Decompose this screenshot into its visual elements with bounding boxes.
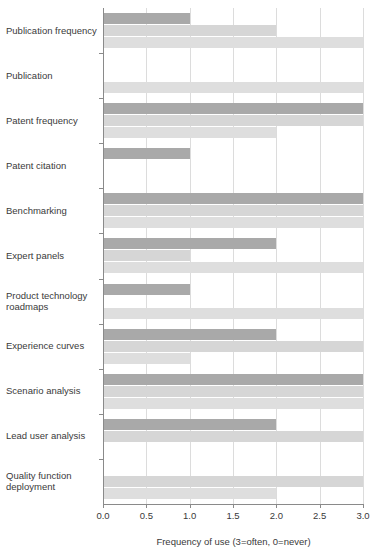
bar-group bbox=[103, 188, 363, 233]
x-tick bbox=[320, 504, 321, 508]
bar bbox=[103, 193, 363, 204]
plot-area bbox=[103, 8, 363, 504]
bar bbox=[103, 419, 276, 430]
y-tick bbox=[99, 143, 103, 144]
y-tick bbox=[99, 279, 103, 280]
bar bbox=[103, 25, 276, 36]
x-tick bbox=[363, 504, 364, 508]
bar bbox=[103, 431, 363, 442]
bar bbox=[103, 103, 363, 114]
bar-group bbox=[103, 324, 363, 369]
x-tick-label: 0.0 bbox=[96, 510, 109, 521]
bar-group bbox=[103, 459, 363, 504]
x-axis-title: Frequency of use (3=often, 0=never) bbox=[103, 536, 364, 547]
x-tick-label: 0.5 bbox=[140, 510, 153, 521]
bar bbox=[103, 329, 276, 340]
bar bbox=[103, 205, 363, 216]
x-tick bbox=[103, 504, 104, 508]
y-tick bbox=[99, 98, 103, 99]
bar bbox=[103, 308, 363, 319]
bar bbox=[103, 13, 190, 24]
y-tick bbox=[99, 414, 103, 415]
category-label: Publication frequency bbox=[6, 25, 98, 37]
y-tick bbox=[99, 188, 103, 189]
x-tick-label: 2.5 bbox=[313, 510, 326, 521]
bar bbox=[103, 374, 363, 385]
bar bbox=[103, 341, 363, 352]
bar bbox=[103, 476, 363, 487]
bar bbox=[103, 262, 363, 273]
bar-groups bbox=[103, 8, 363, 504]
bar bbox=[103, 488, 276, 499]
bar bbox=[103, 37, 363, 48]
x-tick-label: 1.0 bbox=[183, 510, 196, 521]
bar-group bbox=[103, 53, 363, 98]
category-label: Publication bbox=[6, 70, 98, 82]
bar bbox=[103, 386, 363, 397]
x-tick bbox=[276, 504, 277, 508]
category-label: Benchmarking bbox=[6, 205, 98, 217]
y-axis-line bbox=[103, 8, 104, 505]
y-tick bbox=[99, 324, 103, 325]
bar bbox=[103, 398, 363, 409]
bar-group bbox=[103, 233, 363, 278]
bar bbox=[103, 115, 363, 126]
bar-group bbox=[103, 279, 363, 324]
category-label: Scenario analysis bbox=[6, 385, 98, 397]
y-tick bbox=[99, 459, 103, 460]
y-tick bbox=[99, 369, 103, 370]
category-axis-labels: Publication frequencyPublicationPatent f… bbox=[0, 8, 98, 504]
bar-group bbox=[103, 98, 363, 143]
y-tick bbox=[99, 233, 103, 234]
bar-group bbox=[103, 414, 363, 459]
bar bbox=[103, 127, 276, 138]
bar-group bbox=[103, 143, 363, 188]
x-tick-label: 3.0 bbox=[356, 510, 369, 521]
x-tick bbox=[233, 504, 234, 508]
bar bbox=[103, 353, 190, 364]
x-tick-label: 1.5 bbox=[226, 510, 239, 521]
category-label: Experience curves bbox=[6, 340, 98, 352]
bar-group bbox=[103, 369, 363, 414]
category-label: Expert panels bbox=[6, 250, 98, 262]
category-label: Quality function deployment bbox=[6, 470, 98, 493]
bar bbox=[103, 238, 276, 249]
x-tick bbox=[190, 504, 191, 508]
bar-chart: Publication frequencyPublicationPatent f… bbox=[0, 0, 384, 556]
bar bbox=[103, 250, 190, 261]
category-label: Patent citation bbox=[6, 160, 98, 172]
x-tick-label: 2.0 bbox=[270, 510, 283, 521]
y-tick bbox=[99, 53, 103, 54]
x-tick bbox=[146, 504, 147, 508]
category-label: Patent frequency bbox=[6, 115, 98, 127]
category-label: Lead user analysis bbox=[6, 430, 98, 442]
bar bbox=[103, 82, 363, 93]
category-label: Product technology roadmaps bbox=[6, 290, 98, 313]
bar bbox=[103, 284, 190, 295]
bar bbox=[103, 148, 190, 159]
bar bbox=[103, 217, 363, 228]
bar-group bbox=[103, 8, 363, 53]
gridline bbox=[363, 8, 364, 504]
